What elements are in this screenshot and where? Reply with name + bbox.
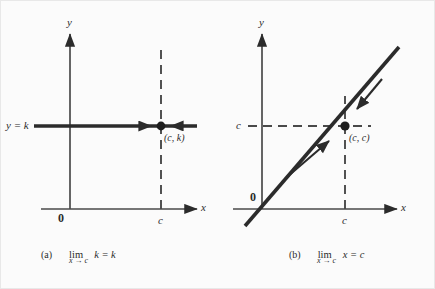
- caption-tag-b: (b): [289, 249, 301, 260]
- origin-label-b: 0: [250, 191, 256, 203]
- point-label-c-c: (c, c): [349, 133, 370, 143]
- panel-b: y x 0 c c (c, c) (b) lim x = c x → c: [219, 1, 435, 289]
- limit-point-c-k: [157, 122, 166, 131]
- panel-a: y x 0 c y = k (c, k) (a) lim k = k x → c: [1, 1, 218, 289]
- caption-tag-a: (a): [41, 249, 52, 260]
- y-axis-label-a: y: [67, 17, 72, 28]
- caption-expr-b: x = c: [343, 249, 365, 260]
- approach-arrow-upright-b: [287, 141, 329, 177]
- curve-label-y-equals-k: y = k: [6, 120, 29, 131]
- origin-label-a: 0: [58, 212, 64, 224]
- caption-sub-a: x → c: [69, 256, 88, 265]
- y-tick-label-c-b: c: [236, 120, 241, 131]
- identity-line-y-equals-x: [245, 47, 399, 226]
- limit-point-c-c: [340, 121, 349, 130]
- x-tick-label-c-b: c: [342, 215, 347, 226]
- x-tick-label-c-a: c: [158, 215, 163, 226]
- caption-sub-b: x → c: [317, 256, 336, 265]
- caption-expr-a: k = k: [94, 249, 116, 260]
- point-label-c-k: (c, k): [164, 133, 185, 143]
- x-axis-label-a: x: [201, 202, 206, 213]
- figure-container: y x 0 c y = k (c, k) (a) lim k = k x → c: [0, 0, 435, 289]
- x-axis-label-b: x: [401, 202, 406, 213]
- y-axis-label-b: y: [259, 17, 264, 28]
